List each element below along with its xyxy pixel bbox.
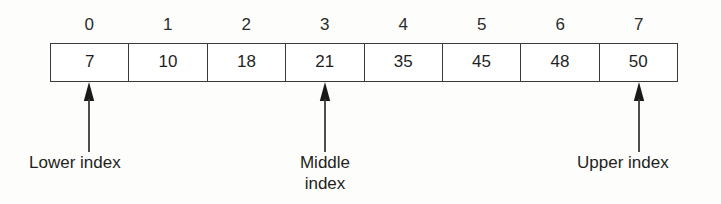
binary-search-array-figure: 0 1 2 3 4 5 6 7 7 10 18 21 35 45 48 50: [0, 0, 721, 204]
array-cell: 21: [286, 44, 364, 81]
array-index-label: 5: [443, 12, 522, 38]
array-container: 7 10 18 21 35 45 48 50: [50, 43, 678, 82]
middle-index-label: Middle index: [255, 152, 395, 194]
middle-index-pointer: [317, 82, 333, 152]
array-index-label: 0: [50, 12, 129, 38]
array-index-label: 6: [521, 12, 600, 38]
array-cell: 50: [600, 44, 677, 81]
array-cell: 18: [208, 44, 286, 81]
array-index-label: 4: [364, 12, 443, 38]
array-cell: 7: [51, 44, 129, 81]
array-index-label: 3: [286, 12, 365, 38]
lower-index-pointer: [81, 82, 97, 152]
array-index-label: 1: [129, 12, 208, 38]
arrow-up-icon: [81, 82, 97, 152]
upper-index-label: Upper index: [577, 152, 669, 173]
array-cell: 48: [521, 44, 599, 81]
array-index-row: 0 1 2 3 4 5 6 7: [50, 12, 678, 38]
arrow-up-icon: [631, 82, 647, 152]
array-cell: 10: [129, 44, 207, 81]
lower-index-label: Lower index: [29, 152, 121, 173]
array-cell: 35: [365, 44, 443, 81]
array-index-label: 7: [600, 12, 679, 38]
arrow-up-icon: [317, 82, 333, 152]
array-cell: 45: [443, 44, 521, 81]
upper-index-pointer: [631, 82, 647, 152]
array-index-label: 2: [207, 12, 286, 38]
